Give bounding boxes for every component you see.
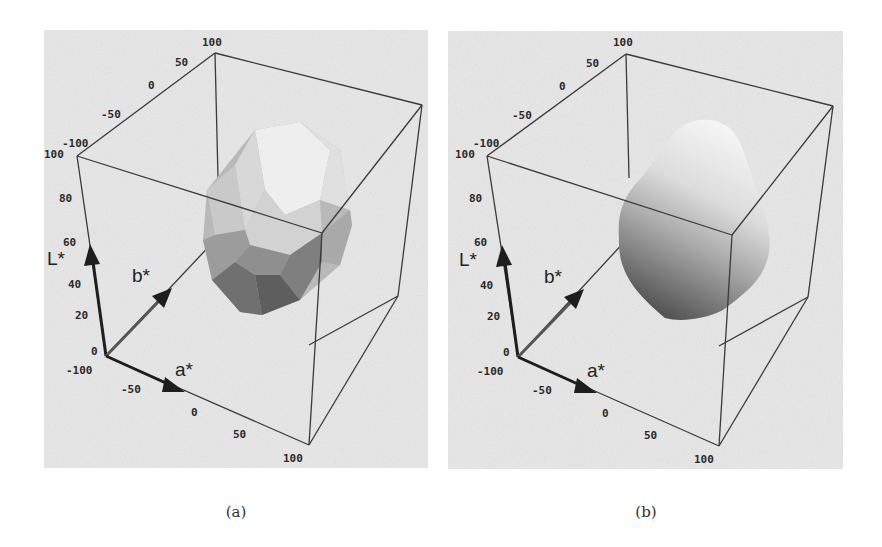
svg-text:100: 100 xyxy=(44,148,64,161)
b-axis-label: b* xyxy=(544,266,563,287)
svg-text:40: 40 xyxy=(68,278,81,291)
svg-text:-50: -50 xyxy=(121,383,141,396)
L-axis-label: L* xyxy=(459,249,478,270)
svg-text:0: 0 xyxy=(91,345,98,358)
svg-text:60: 60 xyxy=(474,236,487,249)
a-axis-label: a* xyxy=(587,360,606,381)
caption-a: (a) xyxy=(206,503,266,521)
caption-b: (b) xyxy=(616,503,676,521)
svg-text:-50: -50 xyxy=(101,108,121,121)
svg-text:-100: -100 xyxy=(477,365,504,378)
svg-text:0: 0 xyxy=(602,407,609,420)
svg-text:50: 50 xyxy=(233,428,246,441)
svg-text:-100: -100 xyxy=(66,364,93,377)
svg-text:100: 100 xyxy=(455,148,475,161)
svg-text:40: 40 xyxy=(480,279,493,292)
svg-text:20: 20 xyxy=(487,310,500,323)
svg-text:60: 60 xyxy=(63,236,76,249)
svg-text:50: 50 xyxy=(644,429,657,442)
svg-text:-50: -50 xyxy=(512,109,532,122)
svg-text:100: 100 xyxy=(613,36,633,49)
svg-text:0: 0 xyxy=(503,346,510,359)
svg-text:50: 50 xyxy=(175,56,188,69)
svg-text:100: 100 xyxy=(202,36,222,49)
svg-text:80: 80 xyxy=(469,192,482,205)
svg-text:0: 0 xyxy=(559,80,566,93)
svg-text:0: 0 xyxy=(148,79,155,92)
cielab-gamut-plot-a: 100 50 0 -50 -100 100 80 60 40 20 0 -100… xyxy=(0,0,441,500)
b-axis-label: b* xyxy=(132,265,151,286)
svg-text:-50: -50 xyxy=(532,384,552,397)
svg-text:50: 50 xyxy=(586,57,599,70)
svg-text:0: 0 xyxy=(191,406,198,419)
a-axis-label: a* xyxy=(175,359,194,380)
svg-text:100: 100 xyxy=(283,452,303,465)
panel-a: 100 50 0 -50 -100 100 80 60 40 20 0 -100… xyxy=(0,0,441,500)
svg-text:-100: -100 xyxy=(62,137,89,150)
svg-text:100: 100 xyxy=(694,453,714,466)
svg-text:20: 20 xyxy=(75,309,88,322)
panel-b: 100 50 0 -50 -100 100 80 60 40 20 0 -100… xyxy=(411,0,852,500)
svg-text:80: 80 xyxy=(59,192,72,205)
L-axis-label: L* xyxy=(47,248,66,269)
svg-text:-100: -100 xyxy=(473,137,500,150)
cielab-gamut-plot-b: 100 50 0 -50 -100 100 80 60 40 20 0 -100… xyxy=(411,0,852,500)
